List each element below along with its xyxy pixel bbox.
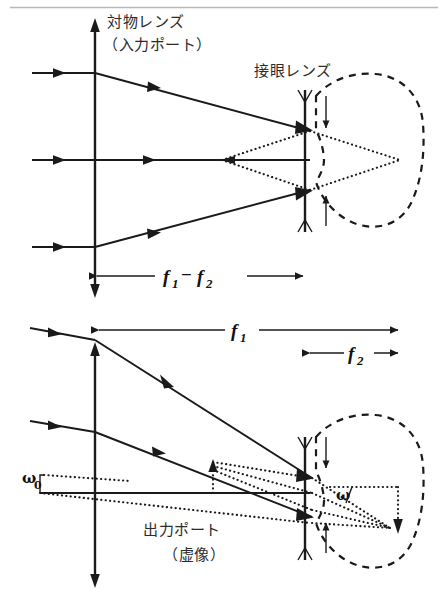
objective-arrow-down-icon (90, 284, 100, 298)
output-port-label: 出力ポート (143, 521, 221, 539)
ray-direction-arrow-icon (53, 68, 66, 78)
dimension-f2: f 2 (310, 341, 398, 368)
upper-diagram: 対物レンズ （入力ポート） 接眼レンズ (32, 13, 424, 298)
input-ray-top-upper (32, 68, 95, 78)
objective-lens-label: 対物レンズ (107, 13, 185, 31)
objective-lens-lower (90, 342, 100, 588)
ray-direction-arrow-icon (152, 447, 166, 457)
omega0-subscript: 0 (34, 479, 42, 492)
f1-subscript: 1 (240, 330, 247, 345)
f1-minus-f2-sub1: 1 (172, 276, 179, 291)
optical-ray-diagram-figure: 対物レンズ （入力ポート） 接眼レンズ (0, 0, 448, 601)
objective-arrow-up-icon (90, 18, 100, 32)
figure-canvas: 対物レンズ （入力ポート） 接眼レンズ (0, 0, 448, 601)
objective-arrow-down-icon (90, 574, 100, 588)
f1-minus-f2-sub2: 2 (205, 276, 213, 291)
eyepiece-lens-upper (298, 90, 312, 232)
ray-direction-arrow-icon (160, 375, 174, 389)
omega0-bracket-icon (40, 475, 44, 493)
ray-direction-arrow-icon (53, 242, 66, 252)
input-ray-axis-upper (32, 155, 310, 165)
f1-minus-f2-minus: − (181, 264, 192, 285)
refracted-ray-bottom-upper (95, 187, 313, 247)
input-ray-upper-lower (30, 328, 314, 483)
objective-arrow-up-icon (90, 342, 100, 356)
f2-subscript: 2 (356, 353, 364, 368)
ray-direction-arrow-icon (143, 155, 156, 165)
dimension-f1-minus-f2: f 1 − f 2 (97, 264, 303, 291)
omega0-angle-marker: ω 0 (22, 469, 310, 523)
eyepiece-lens-lower (298, 437, 312, 560)
objective-lens-port-label: （入力ポート） (103, 36, 212, 54)
lower-diagram: f 1 f 2 (22, 318, 424, 588)
refracted-ray-top-upper (95, 73, 313, 134)
eye-outline-lower (316, 415, 424, 568)
ray-direction-arrow-icon (48, 328, 62, 338)
image-arrow-head-icon (393, 519, 403, 534)
output-port-note-label: （虚像） (163, 546, 225, 564)
omega-symbol: ω (336, 486, 350, 504)
input-ray-bottom-upper (32, 242, 95, 252)
eyepiece-lens-label-upper: 接眼レンズ (254, 62, 332, 80)
omega-angle-marker: ω (336, 486, 352, 504)
crossing-point-arrow-icon (220, 156, 235, 164)
ray-direction-arrow-icon (53, 155, 66, 165)
objective-lens-upper (90, 18, 100, 298)
dimension-f1: f 1 (99, 318, 398, 345)
input-ray-lower-lower (30, 421, 314, 522)
